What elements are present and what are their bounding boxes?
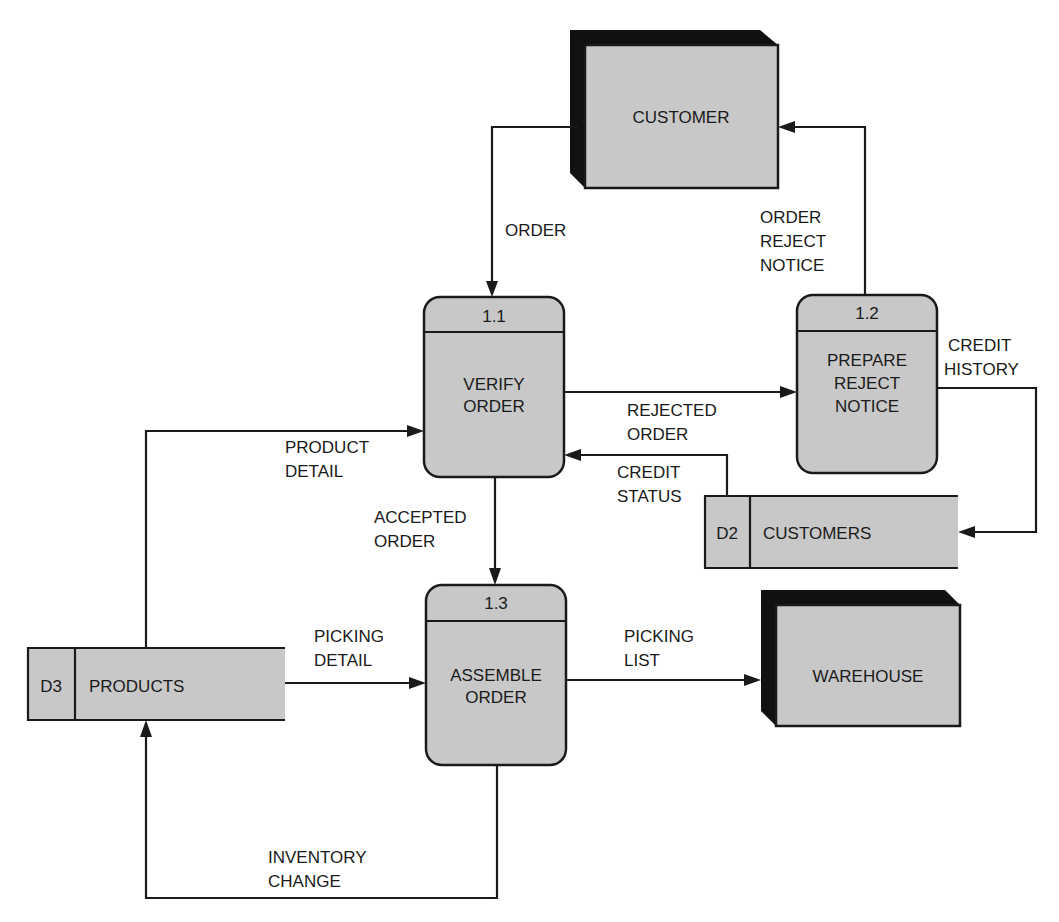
flow-line: [146, 431, 408, 648]
flow-line: [492, 127, 578, 283]
arrowhead-icon: [409, 677, 426, 689]
flow-accepted-order: ACCEPTED ORDER: [374, 477, 501, 585]
flow-label-line3: NOTICE: [760, 256, 824, 275]
flow-credit-status: CREDIT STATUS: [564, 449, 727, 506]
flow-label-line1: PRODUCT: [285, 438, 369, 457]
flow-label-line2: ORDER: [627, 425, 688, 444]
flow-label-line1: PICKING: [624, 627, 694, 646]
datastore-customers[interactable]: D2 CUSTOMERS: [705, 496, 958, 568]
process-verify-order[interactable]: 1.1 VERIFY ORDER: [424, 297, 564, 477]
datastore-products[interactable]: D3 PRODUCTS: [28, 648, 285, 720]
datastore-code: D3: [40, 677, 62, 696]
arrowhead-icon: [407, 425, 424, 437]
flow-picking-detail: PICKING DETAIL: [285, 627, 426, 689]
flow-label-line2: HISTORY: [944, 360, 1019, 379]
flow-label-line1: ORDER: [760, 208, 821, 227]
process-number: 1.1: [482, 307, 506, 326]
entity-warehouse[interactable]: WAREHOUSE: [761, 590, 960, 726]
arrowhead-icon: [564, 449, 581, 461]
arrowhead-icon: [744, 674, 761, 686]
flow-label-line1: PICKING: [314, 627, 384, 646]
process-label-line3: NOTICE: [835, 397, 899, 416]
process-label-line2: ORDER: [465, 688, 526, 707]
entity-box: [776, 605, 960, 726]
flow-label-line2: STATUS: [617, 487, 682, 506]
flow-label-line1: INVENTORY: [268, 848, 367, 867]
process-prepare-reject-notice[interactable]: 1.2 PREPARE REJECT NOTICE: [797, 295, 937, 473]
flow-label-line1: CREDIT: [617, 463, 680, 482]
process-number: 1.2: [855, 304, 879, 323]
process-label-line2: REJECT: [834, 374, 900, 393]
process-label-line1: ASSEMBLE: [450, 666, 542, 685]
flow-order: ORDER: [486, 127, 578, 297]
process-assemble-order[interactable]: 1.3 ASSEMBLE ORDER: [426, 585, 566, 765]
flow-label-line2: CHANGE: [268, 872, 341, 891]
flow-label-line1: CREDIT: [948, 336, 1011, 355]
arrowhead-icon: [778, 121, 795, 133]
arrowhead-icon: [140, 720, 152, 737]
flow-rejected-order: REJECTED ORDER: [564, 386, 797, 444]
process-label-line1: VERIFY: [463, 375, 524, 394]
datastore-label: CUSTOMERS: [763, 524, 871, 543]
entity-label: WAREHOUSE: [813, 667, 924, 686]
process-label-line2: ORDER: [463, 397, 524, 416]
flow-label-line1: ORDER: [505, 221, 566, 240]
flow-picking-list: PICKING LIST: [566, 627, 761, 686]
process-label-line1: PREPARE: [827, 351, 907, 370]
datastore-code: D2: [716, 524, 738, 543]
flow-label-line2: DETAIL: [285, 462, 343, 481]
flow-label-line1: ACCEPTED: [374, 508, 467, 527]
arrowhead-icon: [780, 386, 797, 398]
arrowhead-icon: [489, 568, 501, 585]
flow-label-line2: DETAIL: [314, 651, 372, 670]
arrowhead-icon: [486, 281, 498, 297]
entity-label: CUSTOMER: [633, 108, 730, 127]
flow-label-line2: LIST: [624, 651, 660, 670]
datastore-label: PRODUCTS: [89, 677, 184, 696]
arrowhead-icon: [958, 526, 975, 538]
dfd-canvas: CUSTOMER WAREHOUSE 1.1 VERIFY ORDER 1.2 …: [0, 0, 1059, 922]
flow-label-line2: ORDER: [374, 532, 435, 551]
process-number: 1.3: [484, 594, 508, 613]
entity-customer[interactable]: CUSTOMER: [570, 30, 778, 188]
flow-label-line1: REJECTED: [627, 401, 717, 420]
flow-label-line2: REJECT: [760, 232, 826, 251]
